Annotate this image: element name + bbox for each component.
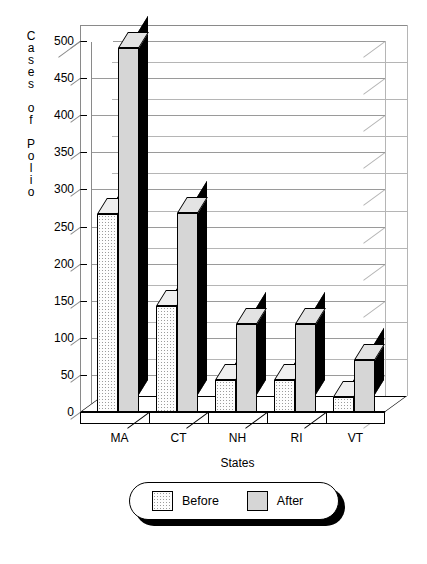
gridline-back [112, 211, 407, 212]
legend: Before After [129, 482, 345, 526]
x-separator [208, 412, 209, 424]
x-tick-label-vt: VT [326, 432, 385, 444]
bar-ct-after [177, 213, 198, 412]
y-tick-mark [80, 78, 87, 79]
y-tick-label: 200 [28, 258, 74, 270]
x-axis-title: States [90, 457, 385, 469]
y-tick-mark [80, 189, 87, 190]
gridline-depth [363, 189, 386, 206]
y-tick-label: 500 [28, 35, 74, 47]
gridline-depth [363, 78, 386, 95]
x-tick-label-ct: CT [149, 432, 208, 444]
y-tick-label: 150 [28, 295, 74, 307]
y-tick-label: 250 [28, 221, 74, 233]
polio-bar-chart: CasesofPolio 500450400350300250200150100… [0, 0, 427, 564]
y-tick-label: 300 [28, 183, 74, 195]
legend-label-before: Before [182, 495, 219, 508]
bar-ri-after [295, 324, 316, 412]
bar-ma-before [97, 214, 118, 412]
gridline-depth [363, 41, 386, 58]
bar-front-face [97, 214, 118, 412]
x-separator [267, 412, 268, 424]
plot-area: 500450400350300250200150100500MACTNHRIVT… [0, 0, 427, 470]
y-tick-label: 0 [28, 406, 74, 418]
x-tick-label-ma: MA [90, 432, 149, 444]
bar-front-face [295, 324, 316, 412]
x-separator [326, 412, 327, 424]
x-separator [149, 412, 150, 424]
gridline-back [112, 136, 407, 137]
y-tick-mark [80, 338, 87, 339]
bar-nh-after [236, 324, 257, 412]
plot-right-edge-back [407, 25, 408, 396]
before-swatch-icon [152, 491, 173, 511]
bar-front-face [236, 324, 257, 412]
gridline-depth [363, 115, 386, 132]
bar-ri-before [274, 380, 295, 412]
y-tick-mark [80, 41, 87, 42]
y-tick-mark [80, 264, 87, 265]
gridline-depth [363, 301, 386, 318]
gridline-depth [363, 152, 386, 169]
legend-label-after: After [277, 495, 303, 508]
y-tick-mark [80, 375, 87, 376]
y-tick-mark [80, 152, 87, 153]
bar-front-face [333, 397, 354, 412]
bar-vt-before [333, 397, 354, 412]
y-tick-mark [80, 227, 87, 228]
bar-ma-after [118, 48, 139, 412]
bar-front-face [215, 380, 236, 412]
y-tick-label: 400 [28, 109, 74, 121]
gridline-depth [363, 227, 386, 244]
y-tick-mark [80, 301, 87, 302]
gridline-back [112, 248, 407, 249]
bar-side-face [197, 181, 207, 396]
legend-item-before[interactable]: Before [152, 491, 219, 511]
y-axis-wall-top [80, 25, 113, 42]
bar-front-face [274, 380, 295, 412]
y-tick-label: 450 [28, 72, 74, 84]
plot-top-edge [112, 25, 407, 26]
bar-front-face [354, 360, 375, 412]
gridline-back [112, 285, 407, 286]
bar-ct-before [156, 306, 177, 412]
gridline-back [112, 99, 407, 100]
bar-front-face [156, 306, 177, 412]
x-tick-label-nh: NH [208, 432, 267, 444]
x-tick-label-ri: RI [267, 432, 326, 444]
after-swatch-icon [247, 491, 268, 511]
y-tick-label: 350 [28, 146, 74, 158]
legend-box: Before After [129, 482, 339, 520]
legend-item-after[interactable]: After [247, 491, 303, 511]
bar-nh-before [215, 380, 236, 412]
chart-floor-front [80, 412, 385, 424]
gridline-depth [363, 264, 386, 281]
y-tick-label: 50 [28, 369, 74, 381]
bar-vt-after [354, 360, 375, 412]
gridline-back [112, 62, 407, 63]
gridline-back [112, 173, 407, 174]
bar-side-face [138, 16, 148, 396]
plot-right-edge [385, 41, 386, 412]
y-tick-label: 100 [28, 332, 74, 344]
bar-front-face [177, 213, 198, 412]
y-tick-mark [80, 115, 87, 116]
bar-front-face [118, 48, 139, 412]
